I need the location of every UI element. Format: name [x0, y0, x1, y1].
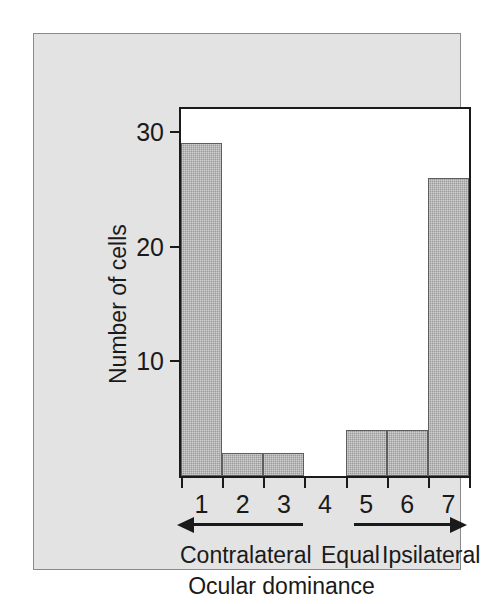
- x-tick-mark: [428, 476, 430, 488]
- x-tick-mark: [222, 476, 224, 488]
- x-tick-mark: [181, 476, 183, 488]
- y-tick-mark: [170, 246, 181, 248]
- y-axis-title-text: Number of cells: [105, 184, 132, 384]
- right-arrow-head-icon: [450, 517, 467, 533]
- right-arrow-shaft: [354, 523, 452, 526]
- direction-arrows: [34, 514, 495, 536]
- bar-3: [263, 453, 304, 476]
- bar-6: [387, 430, 428, 476]
- x-tick-mark: [263, 476, 265, 488]
- bar-2: [222, 453, 263, 476]
- y-tick-label: 20: [136, 233, 170, 261]
- bar-1: [181, 143, 222, 476]
- plot-surface: [181, 109, 469, 476]
- y-tick-mark: [170, 360, 181, 362]
- y-tick-label: 10: [136, 347, 170, 375]
- x-axis-title: Ocular dominance: [34, 572, 495, 600]
- chart-panel: Number of cells 302010 1234567 Contralat…: [33, 33, 461, 570]
- y-tick-label: 30: [136, 118, 170, 146]
- y-tick-mark: [170, 131, 181, 133]
- left-arrow-shaft: [193, 523, 303, 526]
- y-axis-title: Number of cells: [85, 0, 112, 184]
- bar-5: [346, 430, 387, 476]
- x-tick-mark: [304, 476, 306, 488]
- caption-row: Contralateral Equal Ipsilateral: [34, 542, 495, 572]
- x-tick-mark: [346, 476, 348, 488]
- caption-ipsilateral: Ipsilateral: [382, 542, 480, 568]
- caption-contralateral: Contralateral: [180, 542, 312, 568]
- x-tick-mark: [469, 476, 471, 488]
- caption-equal: Equal: [321, 542, 380, 568]
- x-tick-mark: [387, 476, 389, 488]
- plot-area: 302010 1234567: [179, 107, 471, 478]
- figure-container: Number of cells 302010 1234567 Contralat…: [0, 0, 495, 604]
- left-arrow-head-icon: [177, 517, 194, 533]
- bar-7: [428, 178, 469, 476]
